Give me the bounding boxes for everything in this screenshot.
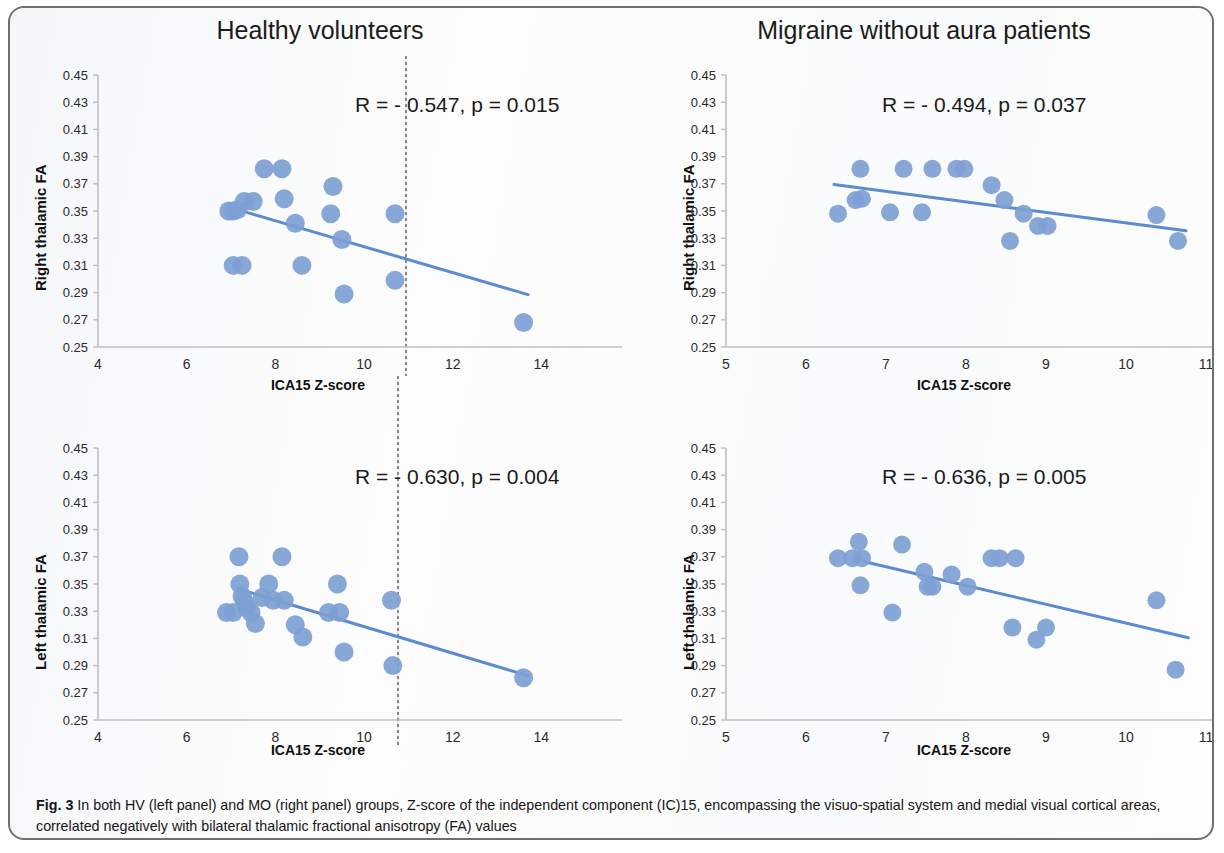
- data-point: [893, 536, 911, 554]
- x-tick-label: 12: [445, 356, 461, 372]
- data-point: [959, 578, 977, 596]
- y-tick-label: 0.45: [691, 441, 716, 456]
- y-tick-label: 0.31: [63, 631, 88, 646]
- x-tick-label: 12: [445, 729, 461, 745]
- y-tick-label: 0.31: [691, 631, 716, 646]
- data-point: [851, 160, 869, 178]
- data-point: [514, 313, 533, 332]
- x-tick-label: 5: [722, 729, 730, 745]
- data-point: [983, 176, 1001, 194]
- y-tick-label: 0.37: [691, 176, 716, 191]
- y-tick-label: 0.29: [63, 285, 88, 300]
- x-tick-label: 6: [183, 356, 191, 372]
- data-point: [853, 190, 871, 208]
- y-tick-label: 0.35: [691, 577, 716, 592]
- data-point: [293, 628, 312, 647]
- figure-frame: Healthy volunteers Right thalamic FA 0.2…: [8, 6, 1214, 840]
- correlation-annotation: R = - 0.547, p = 0.015: [355, 93, 559, 116]
- panel-hv-right-thalamic: Healthy volunteers Right thalamic FA 0.2…: [10, 8, 622, 398]
- data-point: [1015, 205, 1033, 223]
- y-tick-label: 0.33: [691, 604, 716, 619]
- plot-area-mo-right-thalamic: 0.250.270.290.310.330.350.370.390.410.43…: [614, 8, 1214, 398]
- x-tick-label: 11: [1199, 729, 1214, 745]
- figure-caption-text: In both HV (left panel) and MO (right pa…: [36, 797, 1160, 834]
- data-point: [853, 549, 871, 567]
- data-point: [1147, 591, 1165, 609]
- data-point: [332, 230, 351, 249]
- y-tick-label: 0.37: [63, 176, 88, 191]
- y-tick-label: 0.29: [691, 658, 716, 673]
- data-point: [233, 256, 252, 275]
- data-point: [913, 203, 931, 221]
- y-tick-label: 0.37: [691, 549, 716, 564]
- x-tick-label: 8: [962, 356, 970, 372]
- y-tick-label: 0.31: [63, 258, 88, 273]
- x-axis-title-ica15-bottom-left: ICA15 Z-score: [218, 742, 418, 758]
- trendline: [864, 562, 1189, 638]
- data-point: [995, 191, 1013, 209]
- x-tick-label: 6: [802, 356, 810, 372]
- x-tick-label: 10: [1118, 729, 1134, 745]
- data-point: [883, 604, 901, 622]
- data-point: [275, 189, 294, 208]
- data-point: [229, 547, 248, 566]
- data-point: [382, 591, 401, 610]
- y-tick-label: 0.35: [63, 577, 88, 592]
- y-tick-label: 0.25: [63, 713, 88, 728]
- data-point: [272, 159, 291, 178]
- y-tick-label: 0.45: [691, 68, 716, 83]
- x-tick-label: 10: [1118, 356, 1134, 372]
- data-point: [275, 591, 294, 610]
- data-point: [851, 576, 869, 594]
- data-point: [991, 549, 1009, 567]
- y-tick-label: 0.33: [63, 604, 88, 619]
- y-tick-label: 0.39: [691, 149, 716, 164]
- y-tick-label: 0.37: [63, 549, 88, 564]
- data-point: [943, 565, 961, 583]
- y-tick-label: 0.43: [691, 95, 716, 110]
- y-tick-label: 0.27: [691, 312, 716, 327]
- data-point: [1003, 619, 1021, 637]
- y-tick-label: 0.25: [63, 340, 88, 355]
- x-tick-label: 7: [882, 356, 890, 372]
- data-point: [383, 656, 402, 675]
- data-point: [328, 575, 347, 594]
- y-tick-label: 0.27: [63, 312, 88, 327]
- correlation-annotation: R = - 0.494, p = 0.037: [882, 93, 1086, 116]
- x-tick-label: 10: [356, 356, 372, 372]
- data-point: [955, 160, 973, 178]
- y-tick-label: 0.43: [691, 468, 716, 483]
- data-point: [1001, 232, 1019, 250]
- y-tick-label: 0.35: [691, 204, 716, 219]
- y-tick-label: 0.29: [691, 285, 716, 300]
- data-point: [1169, 232, 1187, 250]
- panel-mo-left-thalamic: Left thalamic FA 0.250.270.290.310.330.3…: [614, 404, 1214, 764]
- data-point: [923, 160, 941, 178]
- x-tick-label: 4: [94, 729, 102, 745]
- y-tick-label: 0.39: [63, 149, 88, 164]
- correlation-annotation: R = - 0.636, p = 0.005: [882, 465, 1086, 488]
- data-point: [335, 643, 354, 662]
- x-tick-label: 14: [534, 356, 550, 372]
- data-point: [286, 214, 305, 233]
- y-tick-label: 0.31: [691, 258, 716, 273]
- y-tick-label: 0.27: [691, 685, 716, 700]
- data-point: [1167, 661, 1185, 679]
- data-point: [386, 271, 405, 290]
- y-tick-label: 0.25: [691, 713, 716, 728]
- x-tick-label: 6: [183, 729, 191, 745]
- y-tick-label: 0.39: [63, 522, 88, 537]
- data-point: [323, 177, 342, 196]
- figure-caption: Fig. 3 In both HV (left panel) and MO (r…: [36, 795, 1196, 836]
- data-point: [1039, 217, 1057, 235]
- x-tick-label: 11: [1199, 356, 1214, 372]
- data-point: [244, 192, 263, 211]
- panel-hv-left-thalamic: Left thalamic FA 0.250.270.290.310.330.3…: [10, 404, 622, 764]
- y-tick-label: 0.45: [63, 68, 88, 83]
- x-tick-label: 8: [271, 356, 279, 372]
- data-point: [272, 547, 291, 566]
- data-point: [335, 284, 354, 303]
- data-point: [330, 603, 349, 622]
- x-tick-label: 4: [94, 356, 102, 372]
- data-point: [386, 204, 405, 223]
